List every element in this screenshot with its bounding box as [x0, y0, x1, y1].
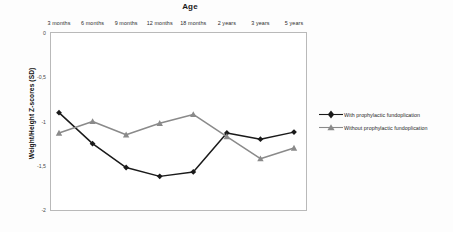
y-tick-label-4: -2: [24, 207, 46, 213]
x-tick-label-4: 18 months: [180, 20, 206, 26]
chart-title: Age: [140, 2, 240, 11]
legend-item-without: Without prophylactic fundoplication: [318, 121, 450, 134]
chart-legend: With prophylactic fundoplication Without…: [318, 108, 450, 134]
data-point: [157, 173, 163, 179]
data-point: [291, 129, 297, 135]
series-lines: [51, 33, 306, 210]
x-tick-label-0: 3 months: [48, 20, 71, 26]
y-tick-label-0: 0: [24, 30, 46, 36]
data-point: [258, 136, 264, 142]
legend-marker-triangle-icon: [318, 122, 344, 133]
plot-area: [50, 32, 307, 211]
legend-label-with: With prophylactic fundoplication: [344, 112, 420, 118]
x-tick-label-2: 9 months: [115, 20, 138, 26]
data-point: [190, 111, 196, 117]
chart-figure: Age 3 months6 months9 months12 months18 …: [0, 0, 453, 232]
x-tick-label-1: 6 months: [81, 20, 104, 26]
data-point: [89, 118, 95, 124]
legend-item-with: With prophylactic fundoplication: [318, 108, 450, 121]
x-tick-label-3: 12 months: [147, 20, 173, 26]
x-tick-label-5: 2 years: [218, 20, 236, 26]
legend-label-without: Without prophylactic fundoplication: [344, 125, 428, 131]
data-point: [291, 145, 297, 151]
legend-marker-diamond-icon: [318, 109, 344, 120]
x-tick-label-6: 3 years: [251, 20, 269, 26]
x-axis-tick-labels: 3 months6 months9 months12 months18 mont…: [50, 20, 308, 31]
y-axis-title: Weight/Height Z-scores (SD): [28, 39, 35, 189]
series-without-fundoplication: [56, 111, 297, 161]
x-tick-label-7: 5 years: [285, 20, 303, 26]
